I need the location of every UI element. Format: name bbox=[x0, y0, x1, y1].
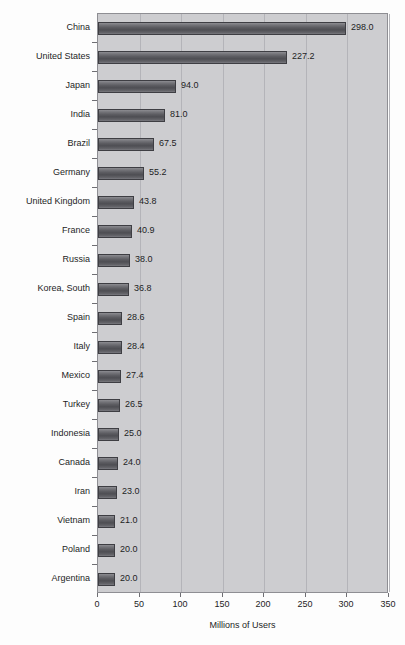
y-axis-category-label: Italy bbox=[73, 340, 90, 352]
y-axis-tick bbox=[92, 245, 97, 246]
bar-value-label: 227.2 bbox=[292, 50, 315, 63]
bar-row: 55.2 bbox=[98, 159, 387, 188]
x-axis-tick-label: 100 bbox=[172, 599, 187, 610]
bar-row: 20.0 bbox=[98, 565, 387, 594]
bar-value-label: 28.4 bbox=[127, 340, 145, 353]
y-axis-tick bbox=[92, 42, 97, 43]
x-axis-tick-mark bbox=[305, 593, 306, 597]
gridline bbox=[389, 14, 390, 592]
bar-row: 24.0 bbox=[98, 449, 387, 478]
bar bbox=[98, 341, 122, 354]
x-axis-tick-label: 350 bbox=[380, 599, 395, 610]
bar-row: 43.8 bbox=[98, 188, 387, 217]
y-axis-tick bbox=[92, 187, 97, 188]
x-axis-tick-mark bbox=[263, 593, 264, 597]
bar-row: 20.0 bbox=[98, 536, 387, 565]
bar-value-label: 21.0 bbox=[120, 514, 138, 527]
y-axis-tick bbox=[92, 506, 97, 507]
y-axis-tick bbox=[92, 216, 97, 217]
bar-row: 38.0 bbox=[98, 246, 387, 275]
x-axis-ticks: 050100150200250300350 bbox=[0, 593, 405, 623]
bar bbox=[98, 22, 346, 35]
bar-row: 25.0 bbox=[98, 420, 387, 449]
y-axis-category-label: Spain bbox=[67, 311, 90, 323]
y-axis-tick bbox=[92, 535, 97, 536]
bar bbox=[98, 283, 129, 296]
bar-value-label: 38.0 bbox=[135, 253, 153, 266]
bar bbox=[98, 573, 115, 586]
y-axis-category-label: France bbox=[62, 224, 90, 236]
bar bbox=[98, 109, 165, 122]
y-axis-category-label: United States bbox=[36, 50, 90, 62]
y-axis-category-label: Canada bbox=[58, 456, 90, 468]
y-axis-category-label: India bbox=[70, 108, 90, 120]
y-axis-category-label: Russia bbox=[62, 253, 90, 265]
y-axis-category-label: Iran bbox=[74, 485, 90, 497]
bar-row: 27.4 bbox=[98, 362, 387, 391]
bar-row: 23.0 bbox=[98, 478, 387, 507]
bar bbox=[98, 457, 118, 470]
y-axis-category-label: Turkey bbox=[63, 398, 90, 410]
y-axis-category-label: Brazil bbox=[67, 137, 90, 149]
bar-value-label: 27.4 bbox=[126, 369, 144, 382]
bar-value-label: 81.0 bbox=[170, 108, 188, 121]
bar-value-label: 26.5 bbox=[125, 398, 143, 411]
x-axis-tick-mark bbox=[97, 593, 98, 597]
y-axis-category-label: Indonesia bbox=[51, 427, 90, 439]
x-axis-tick-mark bbox=[139, 593, 140, 597]
y-axis-category-label: China bbox=[66, 21, 90, 33]
y-axis-tick bbox=[92, 564, 97, 565]
bar bbox=[98, 486, 117, 499]
x-axis-tick-label: 50 bbox=[134, 599, 144, 610]
x-axis-tick-label: 300 bbox=[338, 599, 353, 610]
x-axis-title: Millions of Users bbox=[97, 620, 388, 630]
plot-area: 298.0227.294.081.067.555.243.840.938.036… bbox=[97, 13, 388, 593]
x-axis-tick-mark bbox=[388, 593, 389, 597]
bar-value-label: 24.0 bbox=[123, 456, 141, 469]
y-axis-tick bbox=[92, 274, 97, 275]
bar bbox=[98, 196, 134, 209]
bar bbox=[98, 51, 287, 64]
bar-row: 298.0 bbox=[98, 14, 387, 43]
y-axis-category-label: Vietnam bbox=[57, 514, 90, 526]
bar bbox=[98, 370, 121, 383]
x-axis-tick-mark bbox=[346, 593, 347, 597]
bar-row: 28.4 bbox=[98, 333, 387, 362]
bar bbox=[98, 225, 132, 238]
bar-value-label: 28.6 bbox=[127, 311, 145, 324]
x-axis-tick-label: 200 bbox=[255, 599, 270, 610]
y-axis-tick bbox=[92, 361, 97, 362]
bar-row: 26.5 bbox=[98, 391, 387, 420]
y-axis-labels: ChinaUnited StatesJapanIndiaBrazilGerman… bbox=[0, 13, 90, 593]
bar-value-label: 20.0 bbox=[120, 543, 138, 556]
bar bbox=[98, 399, 120, 412]
bar bbox=[98, 428, 119, 441]
bar-value-label: 55.2 bbox=[149, 166, 167, 179]
bar-row: 67.5 bbox=[98, 130, 387, 159]
y-axis-tick bbox=[92, 158, 97, 159]
y-axis-tick bbox=[92, 390, 97, 391]
bar bbox=[98, 138, 154, 151]
y-axis-tick bbox=[92, 332, 97, 333]
bar bbox=[98, 544, 115, 557]
x-axis-tick-mark bbox=[180, 593, 181, 597]
bar-value-label: 25.0 bbox=[124, 427, 142, 440]
y-axis-tick bbox=[92, 100, 97, 101]
bar-row: 28.6 bbox=[98, 304, 387, 333]
y-axis-tick bbox=[92, 303, 97, 304]
bar-value-label: 94.0 bbox=[181, 79, 199, 92]
bar bbox=[98, 167, 144, 180]
y-axis-tick bbox=[92, 419, 97, 420]
y-axis-tick bbox=[92, 477, 97, 478]
bar-row: 36.8 bbox=[98, 275, 387, 304]
bar-row: 94.0 bbox=[98, 72, 387, 101]
bar-value-label: 298.0 bbox=[351, 21, 374, 34]
bar-value-label: 36.8 bbox=[134, 282, 152, 295]
chart-container: ChinaUnited StatesJapanIndiaBrazilGerman… bbox=[0, 0, 405, 645]
bar bbox=[98, 80, 176, 93]
bar bbox=[98, 254, 130, 267]
y-axis-category-label: United Kingdom bbox=[26, 195, 90, 207]
y-axis-category-label: Poland bbox=[62, 543, 90, 555]
y-axis-category-label: Korea, South bbox=[37, 282, 90, 294]
bar-value-label: 67.5 bbox=[159, 137, 177, 150]
